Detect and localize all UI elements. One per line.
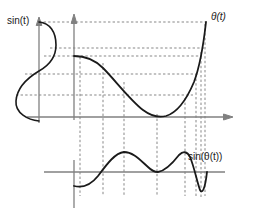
label-sin-t: sin(t) bbox=[7, 16, 29, 26]
horizontal-axis-arrowhead-icon bbox=[224, 114, 234, 120]
function-composition-diagram bbox=[0, 0, 260, 220]
label-sin-theta-t: sin(θ(t)) bbox=[188, 152, 222, 162]
figure-container: sin(t) θ(t) sin(θ(t)) bbox=[0, 0, 260, 220]
theta-curve bbox=[74, 22, 206, 117]
main-axis-arrowhead-icon bbox=[71, 14, 77, 24]
axes-group bbox=[27, 14, 233, 208]
sine-reference-curve bbox=[16, 22, 56, 121]
label-theta-t: θ(t) bbox=[211, 12, 226, 22]
